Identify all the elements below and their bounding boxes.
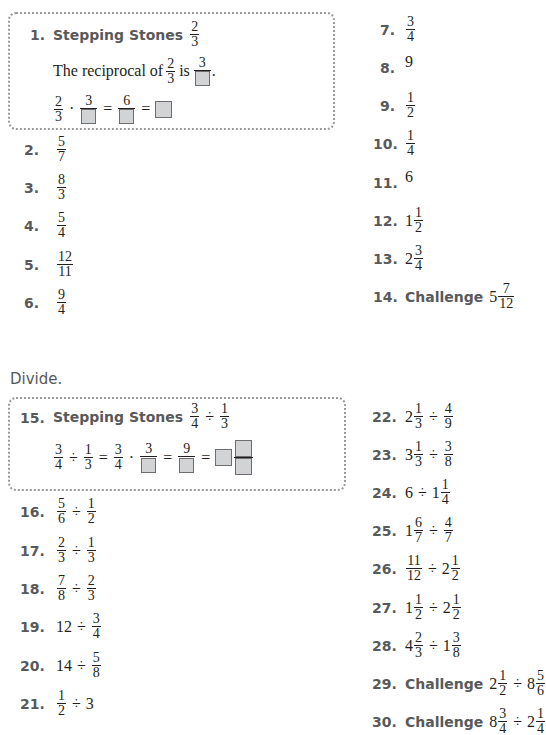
fraction: 13 <box>414 402 423 431</box>
fraction: 12 <box>414 593 423 622</box>
problem-number: 15. <box>20 410 45 426</box>
problem-expression: Challenge834÷214 <box>405 707 546 735</box>
problem-expression: 14÷58 <box>56 651 102 680</box>
answer-blank[interactable] <box>179 458 194 473</box>
fraction: 12 <box>498 669 507 698</box>
problem-number: 20. <box>20 658 45 674</box>
fraction: 34 <box>414 244 423 273</box>
division-work-line: 34 ÷ 13 = 34 · 3 = 9 = <box>53 440 254 475</box>
problem-number: 3. <box>24 180 39 196</box>
problem-number: 18. <box>20 581 45 597</box>
fraction: 1211 <box>57 250 73 279</box>
problem-expression: 78÷23 <box>56 574 97 603</box>
problem-number: 13. <box>373 251 398 267</box>
multiplication-line: 23 · 3 = 6 = <box>53 94 172 124</box>
problem-expression: 112 <box>405 206 424 235</box>
problem-expression: Challenge212÷856 <box>405 669 546 698</box>
fraction: 13 <box>414 440 423 469</box>
problem-expression: 34 <box>405 15 416 44</box>
answer-blank-numerator[interactable] <box>235 440 252 457</box>
stepping-stones-label: Stepping Stones <box>53 27 183 43</box>
fraction: 1112 <box>406 554 422 583</box>
answer-blank-whole[interactable] <box>215 449 232 466</box>
problem-number: 23. <box>372 447 397 463</box>
fraction: 57 <box>57 135 66 164</box>
problem-number: 27. <box>372 600 397 616</box>
problem-number: 6. <box>24 295 39 311</box>
answer-blank[interactable] <box>81 109 96 124</box>
problem-number: 22. <box>372 409 397 425</box>
problem-number: 9. <box>380 98 395 114</box>
problem-expression: 234 <box>405 244 424 273</box>
fraction: 12 <box>452 593 461 622</box>
fraction: 12 <box>406 91 415 120</box>
fraction: 38 <box>444 440 453 469</box>
fraction: 712 <box>498 282 514 311</box>
fraction: 56 <box>57 497 66 526</box>
problem-expression: 1211 <box>56 250 74 279</box>
problem-expression: 313÷38 <box>405 440 454 469</box>
problem-number: 17. <box>20 543 45 559</box>
problem-expression: 57 <box>56 135 67 164</box>
problem-expression: 56÷12 <box>56 497 97 526</box>
problem-expression: 94 <box>56 288 67 317</box>
problem-number: 7. <box>380 22 395 38</box>
fraction: 13 <box>87 536 96 565</box>
answer-blank[interactable] <box>155 101 172 118</box>
fraction: 14 <box>536 707 545 735</box>
problem-expression: 112÷212 <box>405 593 462 622</box>
problem-number: 8. <box>380 60 395 76</box>
reciprocal-line: The reciprocal of 23 is 3 . <box>53 56 216 86</box>
fraction: 94 <box>57 288 66 317</box>
problem-number: 10. <box>373 136 398 152</box>
problem-number: 1. <box>30 27 45 43</box>
stepping-stones-1-title: Stepping Stones 23 <box>53 20 200 49</box>
problem-expression: 14 <box>405 129 416 158</box>
fraction: 47 <box>444 516 453 545</box>
problem-number: 11. <box>373 175 398 191</box>
fraction: 34 <box>498 707 507 735</box>
problem-number: 21. <box>20 696 45 712</box>
stepping-stones-label: Stepping Stones <box>53 409 183 425</box>
answer-blank-denominator[interactable] <box>235 458 252 475</box>
problem-expression: 1112÷212 <box>405 554 461 583</box>
fraction: 34 <box>92 612 101 641</box>
problem-number: 30. <box>372 714 397 730</box>
fraction: 14 <box>441 478 450 507</box>
problem-number: 2. <box>24 142 39 158</box>
problem-expression: 167÷47 <box>405 516 454 545</box>
fraction: 54 <box>57 211 66 240</box>
answer-blank[interactable] <box>141 458 156 473</box>
fraction: 83 <box>57 173 66 202</box>
problem-number: 24. <box>372 485 397 501</box>
problem-expression: 23÷13 <box>56 536 97 565</box>
problem-number: 16. <box>20 504 45 520</box>
problem-expression: 12÷3 <box>56 689 94 718</box>
problem-expression: 54 <box>56 211 67 240</box>
problem-expression: 9 <box>405 53 413 71</box>
problem-expression: 423÷138 <box>405 631 462 660</box>
problem-expression: 6÷114 <box>405 478 451 507</box>
problem-expression: 12 <box>405 91 416 120</box>
answer-blank[interactable] <box>195 71 210 86</box>
problem-number: 28. <box>372 638 397 654</box>
answer-blank[interactable] <box>119 109 134 124</box>
answer-fraction: 23 <box>190 20 199 49</box>
fraction: 78 <box>57 574 66 603</box>
fraction: 38 <box>452 631 461 660</box>
fraction: 58 <box>92 651 101 680</box>
fraction: 14 <box>406 129 415 158</box>
problem-expression: 6 <box>405 168 413 186</box>
section-heading: Divide. <box>10 370 62 388</box>
problem-number: 29. <box>372 676 397 692</box>
problem-number: 19. <box>20 619 45 635</box>
fraction: 12 <box>414 206 423 235</box>
problem-number: 25. <box>372 523 397 539</box>
problem-expression: Challenge5712 <box>405 282 515 311</box>
fraction: 34 <box>406 15 415 44</box>
fraction: 12 <box>87 497 96 526</box>
fraction: 67 <box>414 516 423 545</box>
problem-number: 14. <box>373 289 398 305</box>
fraction: 56 <box>536 669 545 698</box>
fraction: 23 <box>57 536 66 565</box>
